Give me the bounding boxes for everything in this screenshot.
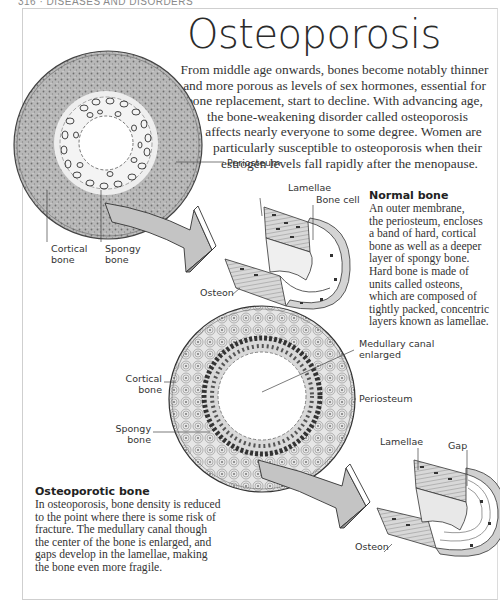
label-bone-cell: Bone cell xyxy=(316,194,360,205)
label-osteon-normal: Osteon xyxy=(200,287,234,298)
normal-osteon-block xyxy=(225,207,350,309)
osteoporotic-bone-caption: Osteoporotic bone In osteoporosis, bone … xyxy=(35,485,265,575)
label-cortical-bone-osteo: Cortical bone xyxy=(118,373,162,395)
normal-medullary-canal xyxy=(79,116,133,170)
normal-bone-heading: Normal bone xyxy=(369,189,499,203)
normal-bone-text: An outer membrane, the periosteum, enclo… xyxy=(369,203,499,329)
label-spongy-bone-normal: Spongy bone xyxy=(105,243,141,265)
label-medullary-canal-enlarged: Medullary canal enlarged xyxy=(359,338,434,360)
label-lamellae-normal: Lamellae xyxy=(288,182,331,193)
label-periosteum-normal: Periosteum xyxy=(227,157,280,168)
label-spongy-bone-osteo: Spongy bone xyxy=(107,423,151,445)
label-periosteum-osteo: Periosteum xyxy=(359,393,412,404)
label-gap: Gap xyxy=(448,440,467,451)
osteoporotic-osteon-block xyxy=(377,460,500,556)
label-lamellae-osteo: Lamellae xyxy=(380,436,423,447)
normal-bone-caption: Normal bone An outer membrane, the perio… xyxy=(369,189,499,329)
label-cortical-bone-normal: Cortical bone xyxy=(51,243,87,265)
label-osteon-osteo: Osteon xyxy=(355,541,389,552)
osteoporotic-bone-heading: Osteoporotic bone xyxy=(35,485,265,499)
osteo-medullary-canal xyxy=(218,352,306,440)
osteoporotic-bone-text: In osteoporosis, bone density is reduced… xyxy=(35,499,265,575)
